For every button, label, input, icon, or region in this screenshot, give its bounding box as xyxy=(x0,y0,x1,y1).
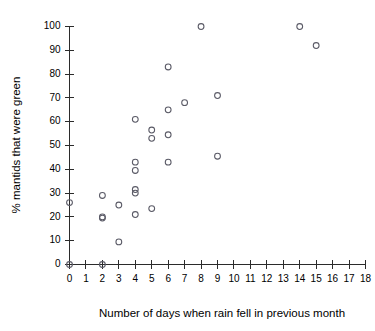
x-axis: 0123456789101112131415161718 xyxy=(67,260,372,284)
y-tick-label: 10 xyxy=(49,234,61,245)
data-point xyxy=(132,159,138,165)
x-tick-label: 4 xyxy=(132,273,138,284)
chart-canvas: 0102030405060708090100 01234567891011121… xyxy=(0,0,375,331)
y-axis: 0102030405060708090100 xyxy=(44,20,74,269)
y-tick-label: 20 xyxy=(49,211,61,222)
data-point xyxy=(182,100,188,106)
data-point xyxy=(132,116,138,122)
y-tick-label: 80 xyxy=(49,68,61,79)
data-point xyxy=(99,193,105,199)
data-point xyxy=(132,168,138,174)
data-point xyxy=(165,64,171,70)
y-tick-label: 100 xyxy=(44,20,61,31)
x-tick-label: 5 xyxy=(149,273,155,284)
y-tick-label: 70 xyxy=(49,92,61,103)
data-points-layer xyxy=(67,24,319,268)
data-point xyxy=(165,132,171,138)
x-tick-label: 13 xyxy=(278,273,290,284)
x-tick-label: 1 xyxy=(83,273,89,284)
data-point xyxy=(149,127,155,133)
y-tick-label: 90 xyxy=(49,44,61,55)
x-tick-label: 16 xyxy=(327,273,339,284)
x-tick-label: 3 xyxy=(116,273,122,284)
x-tick-label: 18 xyxy=(360,273,372,284)
x-tick-label: 0 xyxy=(67,273,73,284)
x-tick-label: 9 xyxy=(215,273,221,284)
data-point xyxy=(313,43,319,49)
x-tick-label: 12 xyxy=(261,273,273,284)
x-tick-label: 15 xyxy=(311,273,323,284)
data-point xyxy=(132,190,138,196)
y-tick-label: 30 xyxy=(49,187,61,198)
data-point xyxy=(215,93,221,99)
data-point xyxy=(132,212,138,218)
x-axis-title: Number of days when rain fell in previou… xyxy=(99,307,345,319)
x-tick-label: 2 xyxy=(100,273,106,284)
data-point xyxy=(149,135,155,141)
data-point xyxy=(116,239,122,245)
x-tick-label: 8 xyxy=(198,273,204,284)
y-axis-title: % mantids that were green xyxy=(10,77,22,214)
data-point xyxy=(198,24,204,30)
y-tick-label: 60 xyxy=(49,115,61,126)
x-tick-label: 11 xyxy=(245,273,256,284)
x-tick-label: 17 xyxy=(343,273,355,284)
data-point xyxy=(215,153,221,159)
data-point xyxy=(116,202,122,208)
y-tick-label: 40 xyxy=(49,163,61,174)
x-tick-label: 7 xyxy=(182,273,188,284)
data-point xyxy=(297,24,303,30)
data-point xyxy=(149,206,155,212)
x-tick-label: 10 xyxy=(228,273,240,284)
x-tick-label: 6 xyxy=(165,273,171,284)
y-tick-label: 50 xyxy=(49,139,61,150)
x-tick-label: 14 xyxy=(294,273,306,284)
y-tick-label: 0 xyxy=(55,258,61,269)
scatter-chart: 0102030405060708090100 01234567891011121… xyxy=(0,0,375,331)
data-point xyxy=(165,159,171,165)
data-point xyxy=(165,107,171,113)
